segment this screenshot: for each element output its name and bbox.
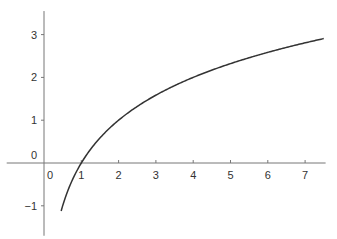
y-tick-label: 0 (31, 149, 37, 161)
chart: 01234567−10123 (0, 0, 337, 239)
series-line-log2 (61, 39, 324, 211)
y-tick-label: 2 (31, 71, 37, 83)
x-tick-label: 1 (78, 169, 84, 181)
x-tick-label: 6 (265, 169, 271, 181)
y-tick-label: −1 (24, 200, 37, 212)
axes (7, 11, 326, 236)
tick-labels: 01234567−10123 (24, 29, 308, 212)
y-tick-label: 1 (31, 114, 37, 126)
x-tick-label: 0 (47, 169, 53, 181)
x-tick-label: 2 (116, 169, 122, 181)
x-tick-label: 7 (302, 169, 308, 181)
y-tick-label: 3 (31, 29, 37, 41)
x-tick-label: 5 (227, 169, 233, 181)
x-tick-label: 4 (190, 169, 196, 181)
x-tick-label: 3 (153, 169, 159, 181)
